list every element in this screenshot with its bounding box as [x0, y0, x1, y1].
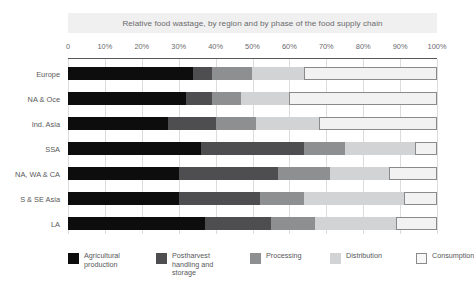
x-axis-tick-50: 50%: [245, 42, 260, 51]
x-axis-tick-60: 60%: [282, 42, 297, 51]
x-axis-tick-10: 10%: [97, 42, 112, 51]
legend-swatch-icon: [330, 253, 341, 264]
bar-segment: [179, 192, 260, 205]
legend-swatch-icon: [156, 253, 167, 264]
bar-row: Ind. Asia: [68, 117, 437, 130]
bar-segment: [241, 92, 289, 105]
category-label-1: NA & Oce: [28, 94, 60, 103]
stacked-bar: [68, 217, 437, 230]
bar-segment: [68, 167, 179, 180]
category-label-6: LA: [51, 219, 60, 228]
bar-segment: [396, 217, 437, 230]
x-axis-tick-70: 70%: [319, 42, 334, 51]
category-label-5: S & SE Asia: [20, 194, 60, 203]
legend-label: Consumption: [432, 252, 474, 261]
legend-swatch-icon: [68, 253, 79, 264]
x-axis-tick-20: 20%: [134, 42, 149, 51]
x-axis-tick-90: 90%: [393, 42, 408, 51]
legend-label: Agricultural production: [84, 252, 120, 269]
legend-item[interactable]: Agricultural production: [68, 252, 120, 269]
bar-segment: [389, 167, 437, 180]
bar-segment: [179, 167, 279, 180]
category-label-4: NA, WA & CA: [15, 169, 60, 178]
category-label-3: SSA: [45, 144, 60, 153]
bar-segment: [216, 117, 257, 130]
stacked-bar: [68, 192, 437, 205]
chart-legend: Agricultural productionPostharvest handl…: [68, 252, 448, 288]
bar-segment: [168, 117, 216, 130]
bar-segment: [68, 117, 168, 130]
bar-segment: [404, 192, 437, 205]
legend-swatch-icon: [250, 253, 261, 264]
bar-segment: [68, 142, 201, 155]
gridline-100: [437, 59, 438, 234]
legend-label: Postharvest handling and storage: [172, 252, 213, 278]
x-axis-tick-100: 100%: [428, 42, 447, 51]
bar-segment: [415, 142, 437, 155]
bar-segment: [304, 67, 437, 80]
x-axis-tick-80: 80%: [356, 42, 371, 51]
bar-segment: [315, 217, 396, 230]
bar-segment: [212, 92, 242, 105]
legend-item[interactable]: Processing: [250, 252, 302, 264]
stacked-bar: [68, 117, 437, 130]
bar-row: Europe: [68, 67, 437, 80]
bar-segment: [256, 117, 319, 130]
bar-row: LA: [68, 217, 437, 230]
legend-swatch-icon: [416, 253, 427, 264]
bar-segment: [304, 192, 404, 205]
legend-item[interactable]: Consumption: [416, 252, 474, 264]
category-label-0: Europe: [36, 69, 60, 78]
bar-segment: [252, 67, 304, 80]
bar-segment: [278, 167, 330, 180]
bar-segment: [345, 142, 415, 155]
stacked-bar: [68, 67, 437, 80]
x-axis-tick-30: 30%: [171, 42, 186, 51]
bar-row: SSA: [68, 142, 437, 155]
bar-segment: [186, 92, 212, 105]
x-axis-tick-labels: 010%20%30%40%50%60%70%80%90%100%: [68, 42, 437, 54]
legend-item[interactable]: Distribution: [330, 252, 382, 264]
bar-segment: [201, 142, 304, 155]
bar-segment: [304, 142, 345, 155]
bar-segment: [289, 92, 437, 105]
bar-row: S & SE Asia: [68, 192, 437, 205]
bar-segment: [68, 92, 186, 105]
stacked-bar: [68, 142, 437, 155]
bar-row: NA, WA & CA: [68, 167, 437, 180]
bar-segment: [212, 67, 253, 80]
legend-item[interactable]: Postharvest handling and storage: [156, 252, 213, 278]
stacked-bar: [68, 92, 437, 105]
stacked-bar: [68, 167, 437, 180]
x-axis-tick-0: 0: [66, 42, 70, 51]
chart-title-band: Relative food wastage, by region and by …: [68, 13, 437, 33]
bar-segment: [193, 67, 211, 80]
legend-label: Distribution: [346, 252, 382, 261]
bar-segment: [260, 192, 304, 205]
bar-segment: [68, 192, 179, 205]
bar-segment: [271, 217, 315, 230]
bar-segment: [205, 217, 271, 230]
bar-row: NA & Oce: [68, 92, 437, 105]
x-axis-tick-40: 40%: [208, 42, 223, 51]
bar-segment: [330, 167, 389, 180]
bar-segment: [68, 217, 205, 230]
chart-title: Relative food wastage, by region and by …: [122, 19, 382, 28]
plot-area: EuropeNA & OceInd. AsiaSSANA, WA & CAS &…: [68, 59, 437, 234]
legend-label: Processing: [266, 252, 302, 261]
bar-segment: [319, 117, 437, 130]
category-label-2: Ind. Asia: [32, 119, 60, 128]
bar-segment: [68, 67, 193, 80]
